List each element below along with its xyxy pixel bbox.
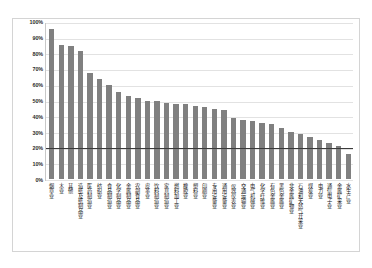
x-label-slot: 非金属矿物业: [286, 183, 296, 213]
chart-frame: 100%90%80%70%60%50%40%30%20%10%0% 烟草业木业其…: [12, 18, 360, 252]
bar-slot: [95, 23, 105, 179]
bar-slot: [47, 23, 57, 179]
bar[interactable]: [87, 73, 92, 179]
bar[interactable]: [193, 106, 198, 179]
x-axis-category-label: 化学制品业: [115, 183, 120, 208]
bar[interactable]: [164, 103, 169, 179]
plot-area: [45, 23, 353, 181]
bar[interactable]: [145, 101, 150, 179]
x-axis-category-label: 金属矿采业: [336, 183, 341, 208]
x-label-slot: 食品制造业: [104, 183, 114, 208]
plot-canvas: [45, 23, 353, 181]
x-axis-category-label: 其他: [67, 183, 72, 193]
bar-slot: [104, 23, 114, 179]
x-axis-category-label: 医药制造业: [87, 183, 92, 208]
y-axis-tick: 50%: [13, 99, 43, 104]
x-label-slot: 其他: [65, 183, 75, 193]
bar[interactable]: [126, 96, 131, 179]
y-axis: 100%90%80%70%60%50%40%30%20%10%0%: [13, 23, 43, 181]
x-axis-category-label: 家具制造业: [163, 183, 168, 208]
bar[interactable]: [250, 121, 255, 179]
bar[interactable]: [183, 104, 188, 179]
bar[interactable]: [202, 107, 207, 179]
bar[interactable]: [212, 109, 217, 179]
x-label-slot: 金属矿采业: [334, 183, 344, 208]
y-axis-tick: 80%: [13, 52, 43, 57]
x-label-slot: 纺织业: [94, 183, 104, 198]
chart-container: 100%90%80%70%60%50%40%30%20%10%0% 烟草业木业其…: [0, 0, 372, 268]
y-axis-tick: 30%: [13, 131, 43, 136]
bar[interactable]: [307, 137, 312, 179]
bar[interactable]: [173, 104, 178, 179]
x-label-slot: 橡胶业: [180, 183, 190, 198]
x-axis-category-label: 水生产业: [346, 183, 351, 203]
bar-slot: [210, 23, 220, 179]
bar[interactable]: [116, 92, 121, 179]
x-axis-category-label: 金属制品业: [125, 183, 130, 208]
x-label-slot: 烟草业: [46, 183, 56, 198]
bar-slot: [324, 23, 334, 179]
x-axis-category-label: 造纸及纸制品业: [77, 183, 82, 218]
x-axis-category-label: 通用设备业: [221, 183, 226, 208]
x-axis-category-label: 交通运输业: [240, 183, 245, 208]
x-label-slot: 仪器仪表业: [228, 183, 238, 208]
x-axis-category-label: 纺织业: [96, 183, 101, 198]
bar[interactable]: [279, 128, 284, 179]
x-label-slot: 石油和天然气开采业: [295, 183, 305, 228]
x-label-slot: 化学纤维业: [257, 183, 267, 208]
bar-series: [47, 23, 353, 179]
bar-slot: [66, 23, 76, 179]
x-axis-category-label: 通信电子业: [326, 183, 331, 208]
x-label-slot: 专用设备业: [209, 183, 219, 208]
bar[interactable]: [259, 123, 264, 179]
bar-slot: [315, 23, 325, 179]
x-axis-category-label: 饮料制造业: [154, 183, 159, 208]
bar[interactable]: [269, 124, 274, 179]
bar[interactable]: [298, 134, 303, 179]
bar-slot: [181, 23, 191, 179]
bar[interactable]: [221, 110, 226, 179]
x-axis-category-label: 木业: [58, 183, 63, 193]
bar-slot: [152, 23, 162, 179]
bar-slot: [76, 23, 86, 179]
x-label-slot: 皮革业: [142, 183, 152, 198]
bar-slot: [277, 23, 287, 179]
x-label-slot: 印刷业: [200, 183, 210, 198]
x-label-slot: 化学制品业: [113, 183, 123, 208]
bar-slot: [257, 23, 267, 179]
bar[interactable]: [288, 132, 293, 179]
x-axis-category-label: 石油和天然气开采业: [298, 183, 303, 228]
bar-slot: [267, 23, 277, 179]
bar[interactable]: [346, 154, 351, 179]
x-label-slot: 医药制造业: [84, 183, 94, 208]
bar[interactable]: [59, 45, 64, 179]
x-axis-category-label: 燃料加工业: [173, 183, 178, 208]
bar[interactable]: [78, 51, 83, 179]
bar-slot: [296, 23, 306, 179]
x-axis-category-label: 电气机械业: [250, 183, 255, 208]
y-axis-tick: 60%: [13, 83, 43, 88]
bar[interactable]: [97, 79, 102, 179]
x-label-slot: 金属制品业: [123, 183, 133, 208]
x-axis-category-label: 印刷业: [202, 183, 207, 198]
reference-line-20-percent: [46, 148, 353, 150]
bar-slot: [219, 23, 229, 179]
bar[interactable]: [154, 101, 159, 179]
bar[interactable]: [68, 46, 73, 179]
bar-slot: [200, 23, 210, 179]
x-label-slot: 造纸及纸制品业: [75, 183, 85, 218]
bar-slot: [143, 23, 153, 179]
bar-slot: [85, 23, 95, 179]
x-axis-category-label: 烟草业: [48, 183, 53, 198]
bar[interactable]: [106, 85, 111, 179]
bar[interactable]: [317, 140, 322, 179]
bar-slot: [334, 23, 344, 179]
bar[interactable]: [135, 98, 140, 179]
x-axis-category-label: 塑料业: [192, 183, 197, 198]
x-label-slot: 交通运输业: [238, 183, 248, 208]
bar[interactable]: [336, 146, 341, 179]
bar[interactable]: [49, 29, 54, 179]
y-axis-tick: 10%: [13, 162, 43, 167]
bar-slot: [286, 23, 296, 179]
bar-slot: [57, 23, 67, 179]
